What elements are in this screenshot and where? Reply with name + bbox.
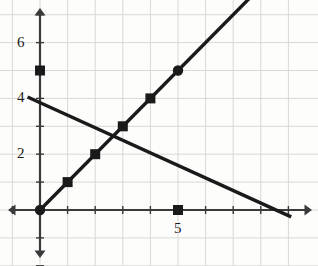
data-point-circle (35, 205, 45, 215)
data-point-square (173, 205, 183, 215)
axis-group (8, 8, 312, 258)
x-axis-arrow-right (305, 205, 313, 216)
data-point-square (118, 121, 128, 131)
y-axis-arrow-down (35, 251, 46, 259)
y-axis-tick-label-2: 2 (17, 146, 25, 161)
data-point-square (90, 149, 100, 159)
data-point-circle (173, 65, 183, 75)
graph-canvas (0, 0, 318, 266)
x-axis-tick-label-5: 5 (174, 221, 182, 236)
y-axis-tick-label-6: 6 (17, 35, 25, 50)
data-point-square (35, 66, 45, 76)
y-axis-tick-label-4: 4 (17, 90, 25, 105)
series-line-rising-line (40, 0, 262, 210)
coordinate-graph: 6 4 2 5 (0, 0, 318, 266)
data-point-square (63, 177, 73, 187)
grid-lines (0, 0, 318, 266)
data-point-square (145, 93, 155, 103)
